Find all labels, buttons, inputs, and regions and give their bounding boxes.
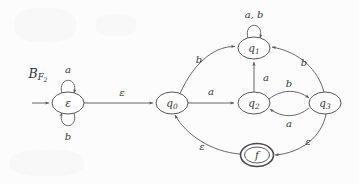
- edge-q2-to-q3: [269, 91, 309, 99]
- edge-label-q3-to-q2-a: a: [286, 118, 292, 129]
- state-label-eps: ε: [65, 97, 71, 109]
- edge-label-f-to-q0-eps: ε: [199, 141, 204, 152]
- edge-label-q2-to-q3-b: b: [286, 78, 292, 89]
- edge-label-eps-to-q0: ε: [119, 87, 124, 98]
- machine-name-label: BF2: [27, 66, 47, 83]
- edge-label-q2-to-q1-a: a: [263, 72, 269, 83]
- edge-q3-to-q2: [270, 108, 309, 116]
- edge-q3-to-f: [275, 114, 326, 155]
- edge-label-q3-to-f-eps: ε: [305, 136, 310, 147]
- edge-label-q0-to-q2-a: a: [208, 86, 214, 97]
- automaton-diagram: a b ε b a a a, b b a b ε ε: [0, 0, 359, 184]
- edge-label-q3-to-q1-b: b: [301, 57, 307, 68]
- edge-f-to-q0: [175, 115, 240, 154]
- edge-label-eps-self-b: b: [65, 131, 71, 142]
- edge-label-q0-to-q1-b: b: [196, 54, 202, 65]
- automaton-figure: a b ε b a a a, b b a b ε ε: [0, 0, 359, 184]
- edge-label-eps-self-a: a: [65, 64, 71, 75]
- edge-label-q1-self-ab: a, b: [245, 9, 264, 20]
- edge-q3-to-q1: [272, 47, 324, 92]
